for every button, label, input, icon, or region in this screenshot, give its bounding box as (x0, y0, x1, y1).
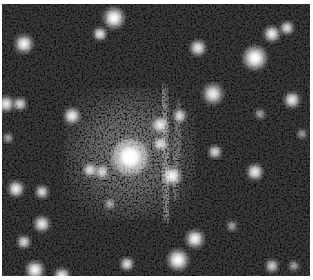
star (207, 88, 218, 99)
star (284, 25, 291, 32)
star (30, 265, 40, 275)
star (108, 12, 119, 23)
star (19, 39, 29, 49)
star (257, 111, 263, 117)
star (97, 31, 104, 38)
star (68, 112, 76, 120)
star (268, 30, 276, 38)
star (5, 135, 11, 141)
star (2, 100, 10, 108)
star (194, 44, 202, 52)
star (39, 189, 46, 196)
star (288, 96, 296, 104)
star (172, 254, 183, 265)
star (156, 121, 164, 129)
star (269, 263, 276, 270)
star (38, 220, 46, 228)
star (190, 234, 200, 244)
star (291, 263, 297, 269)
star-field (2, 4, 310, 276)
star (107, 201, 113, 207)
star (157, 141, 164, 148)
astronomical-image (2, 4, 310, 276)
star (212, 149, 219, 156)
star (177, 113, 184, 120)
star (299, 131, 305, 137)
star (229, 223, 235, 229)
star (167, 171, 177, 181)
star (124, 261, 131, 268)
star (87, 167, 94, 174)
star (12, 185, 20, 193)
star (249, 52, 262, 65)
star (17, 101, 24, 108)
star (21, 239, 28, 246)
star (251, 168, 259, 176)
star (99, 169, 106, 176)
star (120, 147, 140, 167)
